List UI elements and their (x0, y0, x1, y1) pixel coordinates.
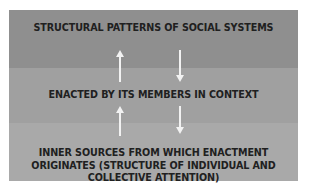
arrow-up-icon (116, 50, 124, 82)
level-label: ENACTED BY ITS MEMBERS IN CONTEXT (49, 89, 259, 102)
level-enacted-by-members: ENACTED BY ITS MEMBERS IN CONTEXT (9, 68, 298, 123)
level-structural-patterns: STRUCTURAL PATTERNS OF SOCIAL SYSTEMS (9, 10, 298, 68)
layered-diagram: STRUCTURAL PATTERNS OF SOCIAL SYSTEMS EN… (9, 10, 298, 181)
arrow-down-icon (176, 50, 184, 82)
level-inner-sources: INNER SOURCES FROM WHICH ENACTMENT ORIGI… (9, 123, 298, 181)
arrow-down-icon (176, 106, 184, 134)
arrow-up-icon (116, 106, 124, 136)
level-label: INNER SOURCES FROM WHICH ENACTMENT ORIGI… (24, 147, 284, 185)
level-label: STRUCTURAL PATTERNS OF SOCIAL SYSTEMS (34, 22, 274, 35)
